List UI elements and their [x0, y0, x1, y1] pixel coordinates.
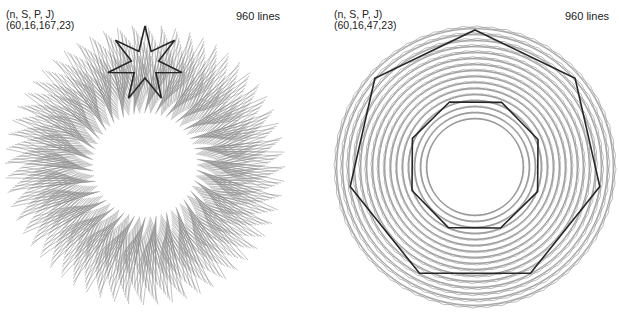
string-art-mesh-left — [5, 25, 285, 305]
string-art-figures — [0, 0, 619, 314]
string-art-mesh-right — [334, 26, 616, 308]
